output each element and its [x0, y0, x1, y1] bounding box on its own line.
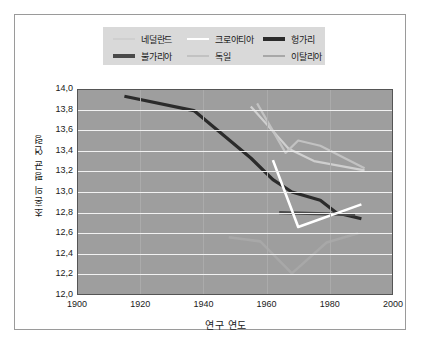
legend-item-헝가리: 헝가리: [263, 31, 314, 47]
y-tick-label: 13,2: [47, 165, 73, 175]
chart-legend: 네덜란드불가리아크로아티아독일헝가리이탈리아: [103, 27, 325, 65]
gridline-horizontal: [77, 254, 393, 255]
y-tick-label: 12,8: [47, 207, 73, 217]
gridline-horizontal: [77, 110, 393, 111]
plot-area: [77, 89, 393, 295]
chart-frame: 네덜란드불가리아크로아티아독일헝가리이탈리아 초혼의 평균 연령 12,012,…: [14, 14, 406, 330]
y-tick-label: 13,0: [47, 186, 73, 196]
gridline-horizontal: [77, 130, 393, 131]
y-tick-label: 13,6: [47, 124, 73, 134]
gridline-horizontal: [77, 213, 393, 214]
gridline-horizontal: [77, 274, 393, 275]
legend-label: 크로아티아: [215, 33, 254, 46]
legend-item-독일: 독일: [187, 48, 231, 64]
y-tick-label: 12,4: [47, 248, 73, 258]
legend-label: 불가리아: [141, 50, 172, 63]
legend-item-이탈리아: 이탈리아: [263, 48, 322, 64]
legend-swatch-icon: [187, 55, 209, 57]
x-tick-label: 1980: [320, 299, 340, 309]
gridline-horizontal: [77, 192, 393, 193]
series-line-헝가리: [124, 96, 361, 219]
x-tick-label: 1920: [130, 299, 150, 309]
gridline-horizontal: [77, 233, 393, 234]
y-tick-label: 12,2: [47, 268, 73, 278]
legend-swatch-icon: [187, 38, 209, 41]
x-axis-tick-labels: 190019201940196019802000: [77, 299, 393, 313]
gridline-horizontal: [77, 89, 393, 90]
legend-label: 헝가리: [291, 33, 314, 46]
legend-swatch-icon: [263, 55, 285, 58]
y-axis-tick-labels: 12,012,212,412,612,813,013,213,413,613,8…: [45, 89, 73, 295]
legend-label: 독일: [215, 50, 231, 63]
x-tick-label: 1940: [193, 299, 213, 309]
x-axis-title: 연구 연도: [15, 317, 422, 332]
legend-item-불가리아: 불가리아: [113, 48, 172, 64]
gridline-horizontal: [77, 171, 393, 172]
y-tick-label: 13,8: [47, 104, 73, 114]
legend-swatch-icon: [263, 37, 285, 40]
y-tick-label: 12,6: [47, 227, 73, 237]
x-tick-label: 1900: [67, 299, 87, 309]
legend-item-크로아티아: 크로아티아: [187, 31, 254, 47]
legend-item-네덜란드: 네덜란드: [113, 31, 172, 47]
x-tick-label: 2000: [383, 299, 403, 309]
y-tick-label: 14,0: [47, 83, 73, 93]
legend-label: 네덜란드: [141, 33, 172, 46]
legend-swatch-icon: [113, 38, 135, 40]
x-tick-label: 1960: [257, 299, 277, 309]
y-tick-label: 13,4: [47, 145, 73, 155]
legend-swatch-icon: [113, 54, 135, 57]
legend-label: 이탈리아: [291, 50, 322, 63]
gridline-horizontal: [77, 151, 393, 152]
y-tick-label: 12,0: [47, 289, 73, 299]
